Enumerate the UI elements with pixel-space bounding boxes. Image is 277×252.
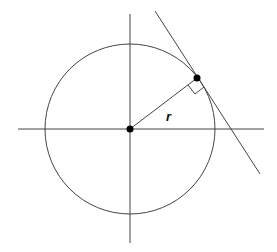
right-angle-marker [188,85,204,94]
tangent-point [194,75,201,82]
tangent-line [155,11,260,174]
radius-label: r [166,109,172,124]
circle-tangent-diagram: r [0,0,277,252]
radius-line [130,78,197,129]
center-point [127,126,134,133]
